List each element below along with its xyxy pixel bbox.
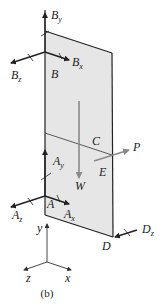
label-A: A bbox=[46, 197, 55, 211]
label-W: W bbox=[75, 179, 86, 193]
label-Az: Az bbox=[11, 208, 23, 224]
axis-label-y: y bbox=[36, 221, 43, 235]
arrow-Bz bbox=[11, 52, 45, 63]
axis-label-z: z bbox=[25, 271, 31, 285]
reaction-D bbox=[115, 229, 137, 237]
label-Bz: Bz bbox=[11, 68, 22, 84]
figure-caption: (b) bbox=[41, 287, 54, 300]
label-E: E bbox=[98, 165, 107, 179]
arrow-Az bbox=[11, 196, 45, 207]
label-C: C bbox=[92, 134, 101, 148]
coordinate-axes: y z x bbox=[24, 221, 71, 285]
label-Dz: Dz bbox=[141, 222, 155, 238]
label-P: P bbox=[132, 140, 141, 154]
label-B: B bbox=[51, 67, 59, 81]
label-By: By bbox=[51, 8, 62, 24]
free-body-diagram: By B Bx Bz C P E W Ay A Ax Az D Dz y z x… bbox=[0, 0, 162, 306]
label-D: D bbox=[101, 239, 111, 253]
axis-label-x: x bbox=[64, 271, 71, 285]
